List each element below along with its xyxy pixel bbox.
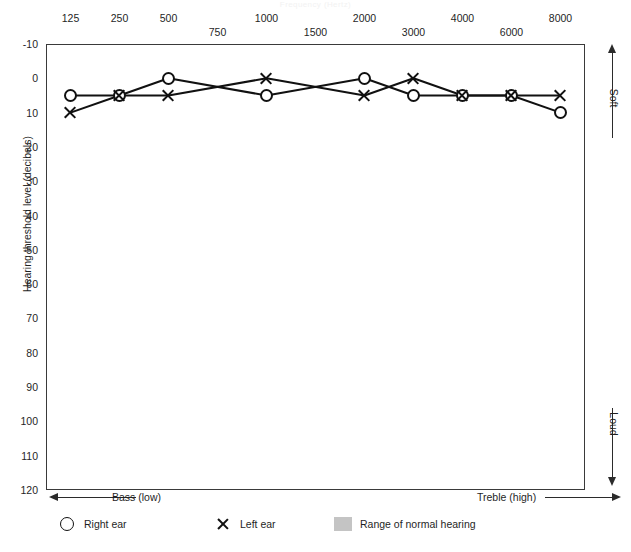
data-point-left-ear <box>553 88 568 103</box>
normal-range-swatch-icon <box>334 517 352 531</box>
data-point-left-ear <box>504 88 519 103</box>
data-point-left-ear <box>161 88 176 103</box>
data-point-left-ear <box>406 71 421 86</box>
data-series-layer <box>0 0 631 552</box>
bass-label: Bass (low) <box>112 491 161 504</box>
chart-legend: Right earLeft earRange of normal hearing <box>46 514 606 540</box>
data-point-right-ear <box>162 72 175 85</box>
soft-label: Soft <box>608 68 620 128</box>
series-line <box>71 78 561 112</box>
treble-arrow-line <box>545 497 613 498</box>
soft-arrow-head <box>608 44 616 53</box>
data-point-left-ear <box>63 105 78 120</box>
data-point-left-ear <box>259 71 274 86</box>
data-point-right-ear <box>407 89 420 102</box>
loud-label: Loud <box>608 394 620 454</box>
data-point-left-ear <box>112 88 127 103</box>
data-point-left-ear <box>357 88 372 103</box>
treble-label: Treble (high) <box>477 491 536 504</box>
legend-label: Range of normal hearing <box>360 518 476 531</box>
data-point-right-ear <box>64 89 77 102</box>
bass-arrow-head <box>49 493 58 501</box>
left-ear-x-icon <box>216 517 230 531</box>
data-point-left-ear <box>455 88 470 103</box>
legend-label: Right ear <box>84 518 127 531</box>
data-point-right-ear <box>260 89 273 102</box>
data-point-right-ear <box>358 72 371 85</box>
audiogram-chart: Frequency (Hertz) -100102030405060708090… <box>0 0 631 552</box>
treble-arrow-head <box>612 493 621 501</box>
loud-arrow-head <box>608 477 616 486</box>
legend-label: Left ear <box>240 518 276 531</box>
right-ear-circle-icon <box>60 517 74 531</box>
